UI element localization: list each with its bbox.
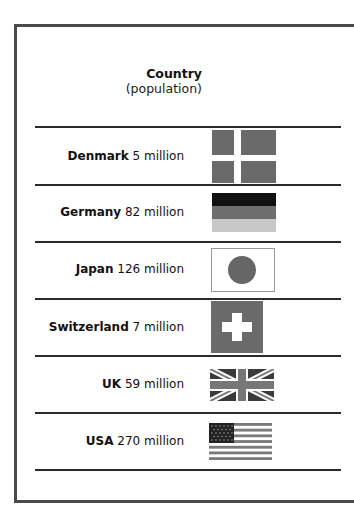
country-name: Germany [60,205,121,219]
header-title: Country [126,66,202,81]
divider [35,184,341,186]
table-row-text: USA 270 million [86,434,184,448]
population: 82 million [121,205,184,219]
germany-flag-icon [212,193,276,232]
country-name: Denmark [68,149,129,163]
divider [35,469,341,471]
population: 59 million [121,377,184,391]
switzerland-flag-icon [211,301,263,353]
country-name: Switzerland [49,320,129,334]
usa-flag-icon [209,423,272,460]
population: 7 million [129,320,184,334]
population: 126 million [113,262,184,276]
divider [35,412,341,414]
column-header: Country (population) [126,66,202,96]
table-row-text: Japan 126 million [76,262,184,276]
table-row-text: Switzerland 7 million [49,320,184,334]
table-row-text: UK 59 million [102,377,184,391]
divider [35,126,341,128]
header-subtitle: (population) [126,81,202,96]
divider [35,355,341,357]
table-row-text: Denmark 5 million [68,149,184,163]
country-name: UK [102,377,121,391]
population: 5 million [129,149,184,163]
uk-flag-icon [210,369,274,401]
population: 270 million [113,434,184,448]
divider [35,241,341,243]
table-row-text: Germany 82 million [60,205,184,219]
country-name: Japan [76,262,114,276]
denmark-flag-icon [212,130,276,183]
country-name: USA [86,434,114,448]
divider [35,298,341,300]
japan-flag-icon [211,248,275,292]
